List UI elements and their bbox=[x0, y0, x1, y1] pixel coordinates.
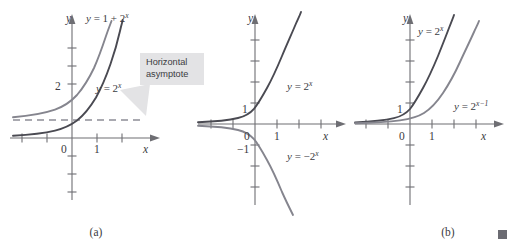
y-tick-label-neg1-b: −1 bbox=[237, 143, 249, 155]
x-tick-label-1-b: 1 bbox=[274, 130, 280, 142]
y-axis-b bbox=[251, 14, 260, 205]
curve-label-1-plus-2-pow-x: y = 1 + 2x bbox=[85, 11, 129, 24]
x-axis-label-a: x bbox=[142, 143, 149, 155]
x-tick-label-1-a: 1 bbox=[94, 143, 100, 155]
origin-label-c: 0 bbox=[399, 130, 405, 142]
exponential-functions-figure: y = 1 + 2x y = 2x 2 0 1 y x Horizontal a… bbox=[0, 0, 518, 252]
panel-b: y = 2x y = −2x 1 −1 0 1 y x (b) bbox=[190, 0, 350, 252]
origin-label-a: 0 bbox=[61, 143, 67, 155]
panel-a-plot: y = 1 + 2x y = 2x 2 0 1 y x bbox=[0, 0, 190, 220]
y-axis-label-b: y bbox=[247, 12, 254, 25]
curve-1-plus-2-pow-x bbox=[13, 21, 112, 117]
y-tick-label-1-b: 1 bbox=[242, 103, 248, 115]
y-axis-a bbox=[68, 14, 77, 200]
origin-label-b: 0 bbox=[244, 130, 250, 142]
curve-label-2-pow-x-a: y = 2x bbox=[95, 81, 122, 94]
curve-2-pow-x-b bbox=[198, 12, 301, 122]
curve-label-negative-2-pow-x: y = −2x bbox=[286, 149, 319, 162]
curve-label-2-pow-x-c: y = 2x bbox=[417, 24, 444, 37]
panel-c: y = 2x y = 2x−1 1 0 1 y x (c) bbox=[350, 0, 518, 252]
x-axis-label-c: x bbox=[480, 130, 487, 142]
panel-a-caption: (a) bbox=[76, 226, 116, 238]
end-of-proof-square bbox=[498, 230, 507, 239]
callout-pointer bbox=[120, 84, 150, 116]
y-axis-label-c: y bbox=[402, 12, 409, 25]
panel-b-plot: y = 2x y = −2x 1 −1 0 1 y x bbox=[190, 0, 350, 220]
curve-label-2-pow-x-minus-1: y = 2x−1 bbox=[453, 99, 488, 112]
x-tick-label-1-c: 1 bbox=[429, 130, 435, 142]
panel-a: y = 1 + 2x y = 2x 2 0 1 y x Horizontal a… bbox=[0, 0, 190, 252]
y-axis-label-a: y bbox=[65, 12, 72, 25]
curve-label-2-pow-x-b: y = 2x bbox=[286, 79, 313, 92]
panel-c-plot: y = 2x y = 2x−1 1 0 1 y x bbox=[350, 0, 518, 220]
y-tick-label-1-c: 1 bbox=[397, 103, 403, 115]
y-tick-label-2-a: 2 bbox=[55, 80, 61, 92]
x-axis-label-b: x bbox=[322, 130, 329, 142]
